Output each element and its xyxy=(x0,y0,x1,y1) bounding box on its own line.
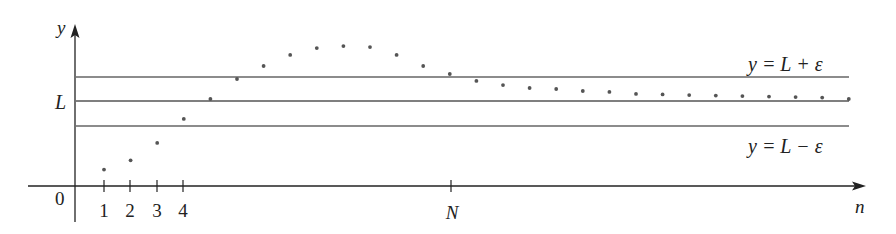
sequence-point xyxy=(687,93,691,97)
x-tick-label-3: 3 xyxy=(152,201,162,220)
limit-label: L xyxy=(55,92,66,112)
sequence-point xyxy=(501,83,505,87)
sequence-convergence-plot xyxy=(0,0,896,234)
sequence-point xyxy=(129,158,133,162)
upper-bound-label: y = L + ε xyxy=(748,54,823,74)
sequence-point xyxy=(661,93,665,97)
sequence-point xyxy=(209,97,213,101)
sequence-point xyxy=(847,97,851,101)
sequence-point xyxy=(741,94,745,98)
sequence-point xyxy=(581,89,585,93)
sequence-point xyxy=(155,141,159,145)
sequence-point xyxy=(421,64,425,68)
sequence-point xyxy=(448,72,452,76)
sequence-point xyxy=(475,79,479,83)
sequence-point xyxy=(102,168,106,172)
sequence-point xyxy=(554,87,558,91)
sequence-point xyxy=(767,95,771,99)
sequence-point xyxy=(182,117,186,121)
sequence-point xyxy=(368,45,372,49)
sequence-point xyxy=(262,64,266,68)
sequence-point xyxy=(528,86,532,90)
y-axis-label: y xyxy=(57,18,65,37)
x-tick-label-2: 2 xyxy=(125,201,135,220)
x-tick-label-N: N xyxy=(446,203,459,222)
sequence-point xyxy=(315,46,319,50)
origin-label: 0 xyxy=(55,189,65,208)
sequence-point xyxy=(714,94,718,98)
lower-bound-label: y = L − ε xyxy=(748,136,823,156)
sequence-point xyxy=(634,92,638,96)
x-tick-label-1: 1 xyxy=(99,201,109,220)
sequence-points xyxy=(102,44,851,171)
x-axis-label: n xyxy=(855,197,865,216)
sequence-point xyxy=(608,90,612,94)
sequence-point xyxy=(342,44,346,48)
sequence-point xyxy=(235,77,239,81)
sequence-point xyxy=(794,95,798,99)
sequence-point xyxy=(820,96,824,100)
sequence-point xyxy=(395,53,399,57)
sequence-point xyxy=(288,53,292,57)
x-tick-label-4: 4 xyxy=(178,201,188,220)
